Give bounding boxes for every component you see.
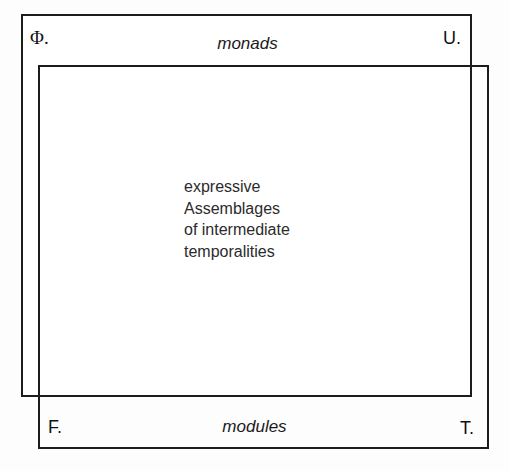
diagram-canvas: Φ. U. F. T. monads modules expressive As… — [0, 0, 509, 471]
center-text-line-1: expressive — [184, 176, 290, 198]
center-text-line-2: Assemblages — [184, 198, 290, 220]
center-text-line-3: of intermediate — [184, 219, 290, 241]
center-text-block: expressive Assemblages of intermediate t… — [184, 176, 290, 262]
center-text-line-4: temporalities — [184, 241, 290, 263]
edge-label-top-monads: monads — [0, 35, 495, 52]
edge-label-bottom-modules: modules — [0, 418, 509, 435]
